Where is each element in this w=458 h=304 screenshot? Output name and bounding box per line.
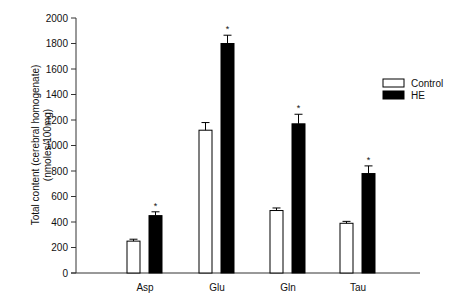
significance-star: * [226,24,230,34]
bar-control-asp [127,241,140,273]
x-tick-label: Asp [136,282,154,293]
significance-star: * [154,201,158,211]
x-tick-label: Gln [280,282,296,293]
legend-label-control: Control [411,78,443,89]
y-tick-label: 600 [51,191,68,202]
y-axis-label-units: (nmoles/100mg) [42,109,53,181]
y-axis-label: Total content (cerebral homogenate) [30,65,41,226]
legend-swatch-control [383,79,404,87]
legend-label-he: HE [411,90,425,101]
y-tick-label: 2000 [46,13,69,24]
bar-he-tau [362,174,375,273]
bar-control-tau [340,223,353,273]
y-tick-label: 400 [51,217,68,228]
significance-star: * [297,103,301,113]
y-tick-label: 0 [62,268,68,279]
y-tick-label: 1800 [46,38,69,49]
legend: ControlHE [383,78,443,101]
bar-he-glu [221,44,234,274]
y-tick-label: 200 [51,242,68,253]
bar-control-glu [199,130,212,273]
y-tick-label: 1400 [46,89,69,100]
bar-he-gln [292,124,305,273]
x-tick-label: Tau [350,282,366,293]
y-tick-label: 1600 [46,64,69,75]
y-tick-label: 800 [51,166,68,177]
bar-he-asp [149,216,162,273]
bar-control-gln [270,211,283,273]
bar-chart: 0200400600800100012001400160018002000 As… [0,0,458,304]
significance-star: * [367,155,371,165]
legend-swatch-he [383,91,404,99]
x-tick-label: Glu [209,282,225,293]
bars: **** [127,24,375,273]
x-axis: AspGluGlnTau [71,273,420,293]
